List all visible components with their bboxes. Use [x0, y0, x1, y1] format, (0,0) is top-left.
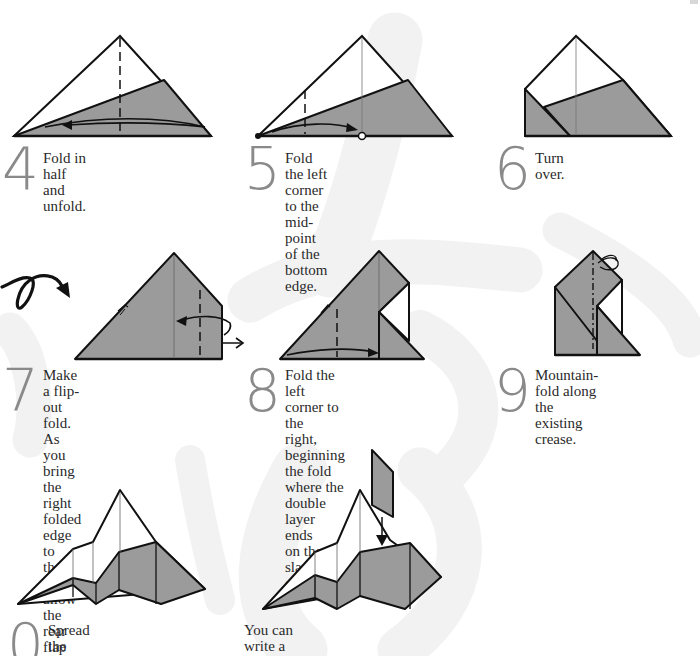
step-10-diagram — [10, 485, 210, 610]
step-number: 9 — [494, 362, 529, 420]
step-final-diagram — [255, 445, 465, 615]
step-instruction: Fold in half and unfold. — [43, 150, 86, 214]
step-6-diagram — [520, 30, 690, 142]
step-number: 7 — [2, 362, 37, 420]
step-8-diagram — [275, 245, 435, 370]
step-5-diagram — [250, 30, 455, 142]
step-instruction: Mountain-fold along the existing crease. — [535, 367, 598, 447]
step-4-diagram — [10, 30, 215, 142]
step-number: 8 — [244, 362, 279, 420]
step-number: 6 — [494, 140, 529, 198]
step-9-diagram — [550, 245, 650, 360]
step-instruction: Turn over. — [535, 150, 565, 182]
step-instruction: Spread the fan-folded layers so the card… — [48, 622, 90, 656]
step-number: 10 — [0, 616, 42, 656]
turn-over-arrow-icon — [0, 270, 75, 320]
step-7-diagram — [70, 245, 250, 370]
closing-note: You can write a message on the card, or … — [244, 622, 295, 656]
step-number: 5 — [244, 140, 279, 198]
page-edge-mark — [690, 0, 698, 4]
step-number: 4 — [2, 140, 37, 198]
